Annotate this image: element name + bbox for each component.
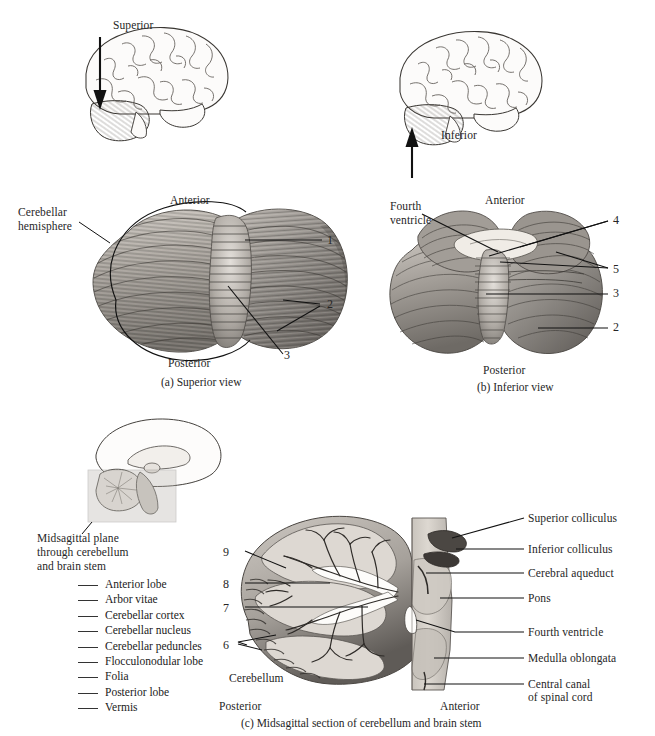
label-c-number-9: 9 bbox=[223, 545, 229, 560]
label-cerebellar-hemisphere-line1: Cerebellar bbox=[18, 205, 67, 219]
label-superior: Superior bbox=[113, 18, 153, 32]
label-c-posterior: Posterior bbox=[219, 699, 261, 713]
word-bank-label: Flocculonodular lobe bbox=[105, 654, 203, 669]
label-c-anterior: Anterior bbox=[440, 699, 480, 713]
label-fourth-ventricle-line2: ventricle bbox=[390, 213, 431, 227]
cerebellum-inferior-illustration bbox=[390, 211, 608, 354]
leader-c-superior-colliculus bbox=[452, 518, 524, 538]
label-b-number-4: 4 bbox=[613, 213, 619, 228]
label-c-number-7: 7 bbox=[223, 601, 229, 616]
label-c-number-6: 6 bbox=[223, 638, 229, 653]
inset-brain-inferior bbox=[400, 32, 542, 178]
label-cerebral-aqueduct: Cerebral aqueduct bbox=[528, 566, 614, 580]
label-midsagittal-line2: through cerebellum bbox=[37, 545, 129, 559]
label-fourth-ventricle-c: Fourth ventricle bbox=[528, 625, 603, 639]
word-bank-item[interactable]: Cerebellar cortex bbox=[78, 608, 203, 623]
inset-brain-midsagittal bbox=[82, 419, 221, 534]
word-bank-item[interactable]: Cerebellar peduncles bbox=[78, 639, 203, 654]
word-bank-label: Anterior lobe bbox=[105, 577, 167, 592]
label-a-number-2: 2 bbox=[327, 297, 333, 312]
answer-blank-7[interactable] bbox=[78, 677, 98, 678]
label-midsagittal-line1: Midsagittal plane bbox=[37, 531, 119, 545]
label-c-number-8: 8 bbox=[223, 577, 229, 592]
label-b-number-2: 2 bbox=[613, 320, 619, 335]
word-bank-label: Folia bbox=[105, 669, 129, 684]
midsagittal-section-illustration bbox=[238, 516, 524, 690]
cerebellum-superior-illustration bbox=[79, 195, 365, 370]
answer-blank-4[interactable] bbox=[78, 631, 98, 632]
word-bank-item[interactable]: Vermis bbox=[78, 700, 203, 715]
label-a-number-3: 3 bbox=[284, 348, 290, 363]
answer-blank-1[interactable] bbox=[78, 585, 98, 586]
label-fourth-ventricle-line1: Fourth bbox=[390, 199, 421, 213]
word-bank-list: Anterior lobe Arbor vitae Cerebellar cor… bbox=[78, 577, 203, 716]
label-inferior-colliculus: Inferior colliculus bbox=[528, 542, 613, 556]
caption-panel-b: (b) Inferior view bbox=[477, 381, 554, 393]
label-midsagittal-line3: and brain stem bbox=[37, 559, 106, 573]
label-cerebellar-hemisphere-line2: hemisphere bbox=[18, 219, 72, 233]
label-a-anterior: Anterior bbox=[170, 193, 210, 207]
caption-panel-a: (a) Superior view bbox=[161, 376, 241, 388]
label-a-number-1: 1 bbox=[327, 233, 333, 248]
answer-blank-2[interactable] bbox=[78, 600, 98, 601]
answer-blank-3[interactable] bbox=[78, 616, 98, 617]
word-bank-item[interactable]: Arbor vitae bbox=[78, 592, 203, 607]
label-b-anterior: Anterior bbox=[485, 193, 525, 207]
word-bank-label: Cerebellar nucleus bbox=[105, 623, 191, 638]
caption-panel-c: (c) Midsagittal section of cerebellum an… bbox=[241, 717, 481, 729]
label-central-canal-line1: Central canal bbox=[528, 677, 590, 691]
answer-blank-5[interactable] bbox=[78, 647, 98, 648]
word-bank-label: Vermis bbox=[105, 700, 138, 715]
answer-blank-8[interactable] bbox=[78, 693, 98, 694]
word-bank-item[interactable]: Flocculonodular lobe bbox=[78, 654, 203, 669]
label-b-number-5: 5 bbox=[613, 262, 619, 277]
label-inferior: Inferior bbox=[441, 128, 477, 142]
word-bank-item[interactable]: Folia bbox=[78, 669, 203, 684]
label-a-posterior: Posterior bbox=[168, 356, 210, 370]
inset-brain-superior bbox=[86, 28, 228, 141]
figure-page: Superior Inferior Anterior Cerebellar he… bbox=[0, 0, 655, 736]
label-cerebellum: Cerebellum bbox=[229, 671, 284, 685]
label-central-canal-line2: of spinal cord bbox=[528, 690, 593, 704]
label-pons: Pons bbox=[528, 591, 551, 605]
word-bank-item[interactable]: Anterior lobe bbox=[78, 577, 203, 592]
label-b-posterior: Posterior bbox=[483, 363, 525, 377]
word-bank-label: Arbor vitae bbox=[105, 592, 158, 607]
label-superior-colliculus: Superior colliculus bbox=[528, 511, 617, 525]
word-bank-label: Cerebellar cortex bbox=[105, 608, 185, 623]
word-bank-label: Cerebellar peduncles bbox=[105, 639, 202, 654]
word-bank-item[interactable]: Cerebellar nucleus bbox=[78, 623, 203, 638]
label-medulla-oblongata: Medulla oblongata bbox=[528, 651, 616, 665]
answer-blank-9[interactable] bbox=[78, 708, 98, 709]
word-bank-item[interactable]: Posterior lobe bbox=[78, 685, 203, 700]
label-b-number-3: 3 bbox=[613, 286, 619, 301]
answer-blank-6[interactable] bbox=[78, 662, 98, 663]
word-bank-label: Posterior lobe bbox=[105, 685, 169, 700]
